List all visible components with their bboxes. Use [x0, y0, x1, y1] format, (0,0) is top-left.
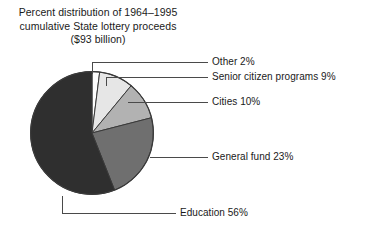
chart-title-line-3: ($93 billion)	[0, 33, 196, 47]
callout-general-fund-label: General fund 23%	[212, 151, 293, 162]
chart-title-line-2: cumulative State lottery proceeds	[0, 20, 196, 34]
pie-chart-svg	[30, 71, 154, 195]
pie-chart-figure: Percent distribution of 1964–1995 cumula…	[0, 0, 372, 230]
chart-title-line-1: Percent distribution of 1964–1995	[0, 6, 196, 20]
chart-title: Percent distribution of 1964–1995 cumula…	[0, 6, 196, 47]
elbow-line-other	[92, 62, 93, 74]
elbow-line-senior-citizen-programs	[106, 77, 107, 86]
callout-education: Education 56%	[180, 207, 248, 218]
callout-general-fund: General fund 23%	[212, 151, 293, 162]
callout-senior-citizen-programs-label: Senior citizen programs 9%	[212, 71, 336, 82]
pie-chart	[30, 71, 154, 195]
callout-cities: Cities 10%	[212, 96, 260, 107]
leader-line-senior-citizen-programs	[106, 77, 208, 78]
leader-line-general-fund	[150, 157, 208, 158]
callout-other: Other 2%	[212, 56, 255, 67]
callout-education-label: Education 56%	[180, 207, 248, 218]
leader-line-other	[92, 62, 208, 63]
callout-other-label: Other 2%	[212, 56, 255, 67]
elbow-line-education	[62, 196, 63, 213]
pie-slice-group	[31, 72, 154, 195]
callout-senior-citizen-programs: Senior citizen programs 9%	[212, 71, 336, 82]
callout-cities-label: Cities 10%	[212, 96, 260, 107]
leader-line-cities	[128, 102, 208, 103]
leader-line-education	[62, 213, 176, 214]
